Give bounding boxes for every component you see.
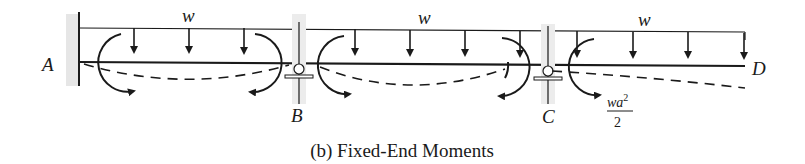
figure-caption: (b) Fixed-End Moments — [310, 140, 494, 162]
load-label-ab: w — [182, 5, 195, 26]
moment-magnitude-label: wa2 2 — [607, 92, 633, 130]
label-d: D — [751, 58, 766, 79]
svg-text:2: 2 — [614, 115, 621, 130]
label-c: C — [542, 106, 555, 127]
label-b: B — [291, 105, 303, 126]
label-a: A — [40, 54, 54, 75]
load-arrows — [134, 28, 744, 58]
roller-support-b — [285, 14, 313, 104]
fixed-end-moments-diagram: A B C D w w w wa2 2 (b) Fixed-End Moment… — [0, 0, 805, 164]
deflected-shape — [84, 64, 745, 88]
load-label-bc: w — [418, 7, 431, 28]
load-label-cd: w — [638, 9, 651, 30]
fixed-support-a — [66, 12, 79, 86]
beam — [79, 62, 745, 66]
svg-text:wa2: wa2 — [607, 92, 628, 110]
